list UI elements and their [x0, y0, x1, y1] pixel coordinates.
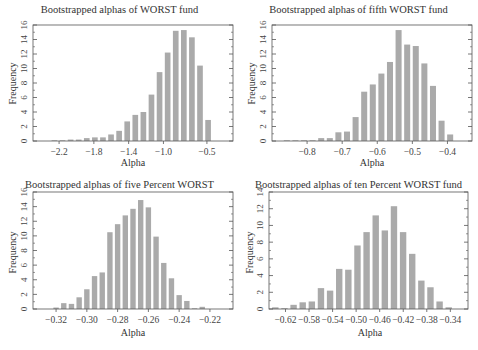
y-tick-label: 4 [19, 277, 29, 282]
histogram-bar [327, 138, 333, 141]
x-tick-label: −0.58 [298, 315, 320, 325]
histogram-bar [387, 62, 393, 141]
x-tick-label: −0.50 [345, 315, 367, 325]
x-tick-label: −0.24 [168, 315, 190, 325]
x-tick-label: −0.42 [392, 315, 414, 325]
x-tick-label: −2.2 [50, 147, 67, 157]
y-tick-label: 0 [258, 138, 268, 143]
histogram-bar [169, 278, 174, 309]
histogram-bar [396, 30, 402, 141]
histogram-bar [353, 117, 359, 141]
y-tick-label: 8 [258, 80, 268, 85]
x-tick-label: −0.8 [298, 147, 315, 157]
histogram-bar [430, 86, 436, 141]
histogram-bar [132, 115, 138, 141]
histogram-bar [84, 138, 90, 141]
y-tick-label: 12 [255, 204, 265, 213]
x-tick-label: −0.22 [199, 315, 221, 325]
y-tick-label: 8 [255, 239, 265, 244]
x-axis-label: Alpha [103, 157, 163, 168]
panel-fifth-worst-fund: Bootstrapped alphas of fifth WORST fund … [239, 0, 478, 175]
histogram-bar [173, 31, 179, 141]
histogram-bar [153, 237, 158, 309]
histogram-bar [418, 281, 424, 309]
x-tick-label: −0.28 [107, 315, 129, 325]
x-tick-label: −0.5 [198, 147, 215, 157]
histogram-bar [370, 84, 376, 141]
histogram-bar [189, 37, 195, 141]
histogram-bar [413, 46, 419, 141]
y-tick-label: 12 [258, 50, 268, 59]
y-tick-label: 16 [19, 20, 29, 30]
y-tick-label: 0 [255, 306, 265, 311]
y-tick-label: 12 [19, 50, 29, 59]
y-tick-label: 10 [258, 64, 268, 74]
histogram-bar [363, 232, 369, 309]
histogram-bar [146, 207, 151, 309]
histogram-bar [447, 134, 453, 141]
y-tick-label: 4 [255, 273, 265, 278]
histogram-bar [335, 132, 341, 141]
histogram-bar [116, 131, 122, 141]
histogram-plot: 0246810121416−0.8−0.7−0.6−0.5−0.4 [239, 0, 478, 175]
histogram-bar [327, 291, 333, 309]
histogram-bar [100, 137, 106, 141]
y-tick-label: 0 [19, 306, 29, 311]
x-tick-label: −0.62 [274, 315, 296, 325]
histogram-bar [165, 53, 171, 141]
y-tick-label: 14 [19, 35, 29, 45]
histogram-bar [378, 74, 384, 141]
panel-worst-fund: Bootstrapped alphas of WORST fund 024681… [0, 0, 239, 175]
y-axis-label: Frequency [7, 49, 18, 119]
x-tick-label: −0.7 [334, 147, 351, 157]
x-tick-label: −0.30 [76, 315, 98, 325]
histogram-bar [157, 72, 163, 141]
y-tick-label: 10 [255, 220, 265, 230]
histogram-bar [124, 121, 130, 141]
x-tick-label: −1.0 [155, 147, 172, 157]
histogram-bar [92, 276, 97, 309]
histogram-bar [69, 304, 74, 309]
y-tick-label: 0 [19, 138, 29, 143]
y-tick-label: 8 [19, 248, 29, 253]
histogram-bar [108, 134, 114, 141]
histogram-bar [436, 301, 442, 309]
x-tick-label: −0.32 [45, 315, 67, 325]
x-axis-label: Alpha [342, 157, 402, 168]
histogram-bar [300, 302, 306, 309]
y-tick-label: 16 [258, 20, 268, 30]
y-axis-label: Frequency [246, 49, 257, 119]
histogram-bar [181, 30, 187, 141]
y-tick-label: 14 [19, 202, 29, 212]
y-tick-label: 2 [19, 292, 29, 297]
histogram-bar [184, 301, 189, 309]
histogram-bar [92, 137, 98, 141]
histogram-bar [100, 272, 105, 309]
y-tick-label: 2 [19, 124, 29, 129]
histogram-bar [404, 45, 410, 141]
histogram-bar [84, 289, 89, 309]
x-tick-label: −1.4 [120, 147, 137, 157]
x-axis-label: Alpha [103, 327, 163, 338]
y-tick-label: 14 [255, 187, 265, 197]
x-tick-label: −0.6 [369, 147, 386, 157]
x-tick-label: −0.5 [404, 147, 421, 157]
histogram-bar [161, 263, 166, 309]
y-tick-label: 6 [19, 262, 29, 267]
histogram-bar [290, 305, 296, 309]
y-tick-label: 4 [258, 109, 268, 114]
histogram-bar [149, 95, 155, 141]
y-tick-label: 10 [19, 64, 29, 74]
y-tick-label: 6 [258, 95, 268, 100]
panel-ten-percent-worst-fund: Bootstrapped alphas of ten Percent WORST… [239, 175, 478, 350]
histogram-bar [427, 287, 433, 309]
histogram-bar [141, 112, 147, 141]
histogram-bar [61, 303, 66, 309]
histogram-bar [76, 297, 81, 309]
x-tick-label: −0.4 [439, 147, 456, 157]
histogram-bar [318, 138, 324, 141]
y-tick-label: 6 [255, 256, 265, 261]
histogram-bar [361, 92, 367, 141]
y-tick-label: 2 [258, 124, 268, 129]
y-tick-label: 8 [19, 80, 29, 85]
